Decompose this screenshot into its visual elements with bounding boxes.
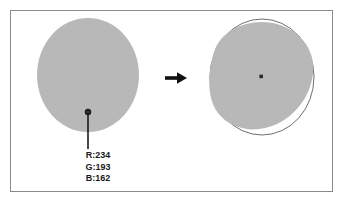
readout-blue-channel: B:162: [63, 173, 133, 185]
readout-red-channel: R:234: [63, 150, 133, 162]
readout-green-channel: G:193: [63, 162, 133, 174]
figure-canvas: R:234 G:193 B:162: [0, 0, 344, 205]
arrow-right-icon: [165, 72, 187, 84]
figure-graphics: [0, 0, 344, 205]
rgb-color-readout: R:234 G:193 B:162: [63, 150, 133, 185]
center-point-marker-icon: [259, 75, 263, 79]
sample-point-marker-icon: [85, 109, 91, 115]
